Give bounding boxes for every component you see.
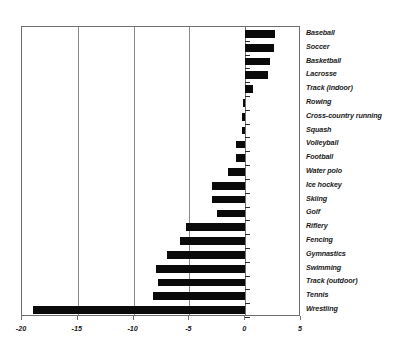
x-tick-label: -10 [127, 324, 137, 333]
bar[interactable] [212, 196, 245, 204]
category-label: Basketball [306, 57, 341, 65]
bar[interactable] [180, 237, 245, 245]
category-label: Squash [306, 126, 331, 134]
bar-row[interactable] [22, 279, 299, 287]
x-tick-mark [244, 316, 245, 320]
x-tick-mark [188, 316, 189, 320]
category-label: Volleyball [306, 139, 338, 147]
bar-row[interactable] [22, 196, 299, 204]
x-tick-mark [77, 316, 78, 320]
category-label: Soccer [306, 43, 329, 51]
bar[interactable] [245, 30, 275, 38]
axis-tick-stub [245, 96, 250, 97]
bar[interactable] [33, 306, 245, 314]
axis-tick-stub [245, 276, 250, 277]
plot-area [21, 26, 300, 316]
axis-tick-stub [245, 55, 250, 56]
bar-row[interactable] [22, 99, 299, 107]
category-label: Gymnastics [306, 250, 346, 258]
bar[interactable] [156, 265, 245, 273]
bar-row[interactable] [22, 168, 299, 176]
bar-row[interactable] [22, 237, 299, 245]
bar[interactable] [212, 182, 245, 190]
bar[interactable] [245, 58, 270, 66]
category-label: Rowing [306, 98, 331, 106]
bar-row[interactable] [22, 306, 299, 314]
bar[interactable] [217, 210, 245, 218]
bar-row[interactable] [22, 141, 299, 149]
x-tick-label: 5 [298, 324, 302, 333]
bar[interactable] [167, 251, 245, 259]
bar[interactable] [228, 168, 245, 176]
bar[interactable] [245, 44, 274, 52]
bar-row[interactable] [22, 251, 299, 259]
category-label: Water polo [306, 167, 342, 175]
axis-tick-stub [245, 220, 250, 221]
x-tick-mark [133, 316, 134, 320]
axis-tick-stub [245, 262, 250, 263]
bar[interactable] [242, 113, 245, 121]
category-label: Track (indoor) [306, 84, 353, 92]
bar-row[interactable] [22, 182, 299, 190]
bar-row[interactable] [22, 58, 299, 66]
bar-row[interactable] [22, 210, 299, 218]
axis-tick-stub [245, 41, 250, 42]
category-label: Ice hockey [306, 181, 342, 189]
category-label: Cross-country running [306, 112, 382, 120]
bar-row[interactable] [22, 30, 299, 38]
bar[interactable] [236, 141, 245, 149]
bars-layer [22, 27, 299, 315]
axis-tick-stub [245, 303, 250, 304]
bar[interactable] [245, 71, 267, 79]
x-tick-label: 0 [242, 324, 246, 333]
bar[interactable] [236, 154, 245, 162]
category-label: Lacrosse [306, 70, 337, 78]
category-label: Football [306, 153, 333, 161]
axis-tick-stub [245, 179, 250, 180]
axis-tick-stub [245, 234, 250, 235]
bar[interactable] [186, 223, 245, 231]
bar-row[interactable] [22, 265, 299, 273]
axis-tick-stub [245, 289, 250, 290]
bar[interactable] [153, 292, 246, 300]
x-tick-label: -20 [16, 324, 26, 333]
axis-tick-stub [245, 110, 250, 111]
category-label: Track (outdoor) [306, 277, 357, 285]
category-label: Swimming [306, 264, 341, 272]
category-label: Wrestling [306, 305, 338, 313]
category-label: Golf [306, 208, 320, 216]
x-axis: -20-15-10-505 [0, 316, 394, 346]
category-label: Fencing [306, 236, 333, 244]
axis-tick-stub [245, 124, 250, 125]
bar[interactable] [243, 99, 245, 107]
category-label: Tennis [306, 291, 328, 299]
axis-tick-stub [245, 68, 250, 69]
category-label-list: BaseballSoccerBasketballLacrosseTrack (i… [306, 26, 394, 316]
category-label: Baseball [306, 29, 335, 37]
bar-chart: BaseballSoccerBasketballLacrosseTrack (i… [0, 0, 394, 354]
bar-row[interactable] [22, 127, 299, 135]
axis-tick-stub [245, 193, 250, 194]
bar-row[interactable] [22, 154, 299, 162]
bar[interactable] [242, 127, 245, 135]
category-label: Skiing [306, 195, 327, 203]
x-tick-mark [300, 316, 301, 320]
axis-tick-stub [245, 248, 250, 249]
bar[interactable] [245, 85, 253, 93]
bar-row[interactable] [22, 44, 299, 52]
axis-tick-stub [245, 151, 250, 152]
bar-row[interactable] [22, 113, 299, 121]
bar-row[interactable] [22, 85, 299, 93]
axis-tick-stub [245, 82, 250, 83]
x-tick-mark [21, 316, 22, 320]
bar[interactable] [158, 279, 245, 287]
x-tick-label: -5 [185, 324, 191, 333]
bar-row[interactable] [22, 223, 299, 231]
bar-row[interactable] [22, 71, 299, 79]
axis-tick-stub [245, 137, 250, 138]
bar-row[interactable] [22, 292, 299, 300]
axis-tick-stub [245, 207, 250, 208]
category-label: Riflery [306, 222, 328, 230]
x-tick-label: -15 [72, 324, 82, 333]
axis-tick-stub [245, 165, 250, 166]
